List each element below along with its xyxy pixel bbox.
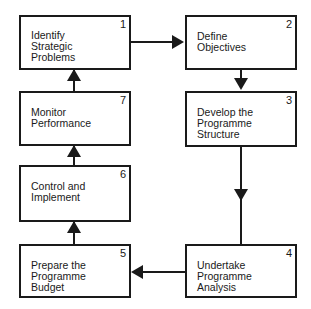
arrowhead-left-icon [131,265,143,279]
step-number: 7 [120,94,126,106]
step-label: Monitor Performance [31,107,91,129]
arrowhead-down-icon [234,189,248,201]
step-box-7: 7 Monitor Performance [19,91,131,146]
step-box-3: 3 Develop the Programme Structure [185,91,297,147]
step-label: Undertake Programme Analysis [197,260,252,293]
step-label: Identify Strategic Problems [31,30,75,63]
arrowhead-up-icon [67,221,81,233]
step-label: Develop the Programme Structure [197,107,253,140]
step-number: 3 [286,94,292,106]
step-label: Define Objectives [197,31,246,53]
arrowhead-up-icon [67,69,81,81]
step-number: 4 [286,247,292,259]
step-label: Control and Implement [31,181,85,203]
step-box-6: 6 Control and Implement [19,165,131,222]
step-box-5: 5 Prepare the Programme Budget [19,244,131,298]
step-box-1: 1 Identify Strategic Problems [19,15,131,70]
step-number: 5 [120,247,126,259]
step-number: 2 [286,18,292,30]
arrowhead-right-icon [172,35,184,49]
step-box-4: 4 Undertake Programme Analysis [185,244,297,298]
step-number: 1 [120,18,126,30]
arrowhead-up-icon [67,145,81,157]
arrowhead-down-icon [234,78,248,90]
step-number: 6 [120,168,126,180]
step-box-2: 2 Define Objectives [185,15,297,70]
step-label: Prepare the Programme Budget [31,260,86,293]
